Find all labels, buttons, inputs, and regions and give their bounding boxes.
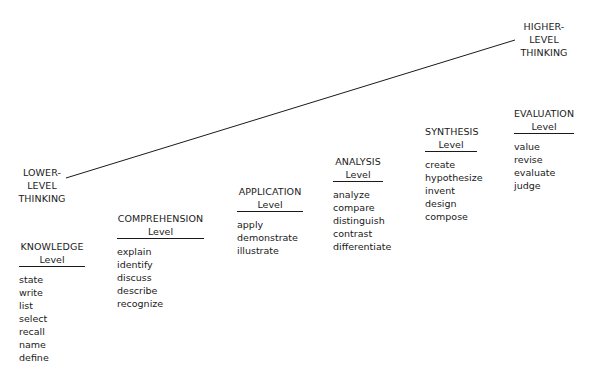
verb-item: differentiate bbox=[333, 240, 383, 253]
level-header: ANALYSIS Level bbox=[333, 155, 383, 182]
verb-item: distinguish bbox=[333, 214, 383, 227]
label-line: LEVEL bbox=[18, 179, 66, 192]
bloom-taxonomy-diagram: LOWER- LEVEL THINKING HIGHER- LEVEL THIN… bbox=[0, 0, 594, 390]
higher-level-thinking-label: HIGHER- LEVEL THINKING bbox=[514, 20, 574, 59]
level-subtitle: Level bbox=[333, 168, 383, 182]
verb-list: state write list select recall name defi… bbox=[19, 273, 85, 364]
level-subtitle: Level bbox=[19, 253, 85, 267]
verb-item: demonstrate bbox=[237, 231, 303, 244]
verb-item: recognize bbox=[117, 297, 204, 310]
verb-item: contrast bbox=[333, 227, 383, 240]
verb-item: describe bbox=[117, 284, 204, 297]
level-header: SYNTHESIS Level bbox=[425, 125, 477, 152]
verb-item: discuss bbox=[117, 271, 204, 284]
verb-list: analyze compare distinguish contrast dif… bbox=[333, 188, 383, 253]
verb-item: write bbox=[19, 286, 85, 299]
verb-item: evaluate bbox=[514, 166, 574, 179]
verb-list: explain identify discuss describe recogn… bbox=[117, 245, 204, 310]
verb-item: select bbox=[19, 312, 85, 325]
level-analysis: ANALYSIS Level analyze compare distingui… bbox=[333, 155, 383, 253]
level-subtitle: Level bbox=[425, 138, 477, 152]
verb-item: revise bbox=[514, 153, 574, 166]
label-line: HIGHER- bbox=[514, 20, 574, 33]
level-header: EVALUATION Level bbox=[514, 107, 574, 134]
verb-list: apply demonstrate illustrate bbox=[237, 218, 303, 257]
label-line: THINKING bbox=[18, 192, 66, 205]
verb-item: identify bbox=[117, 258, 204, 271]
verb-item: explain bbox=[117, 245, 204, 258]
verb-item: value bbox=[514, 140, 574, 153]
verb-item: recall bbox=[19, 325, 85, 338]
verb-item: judge bbox=[514, 179, 574, 192]
verb-item: list bbox=[19, 299, 85, 312]
verb-item: design bbox=[425, 197, 477, 210]
level-title: EVALUATION bbox=[514, 107, 574, 120]
level-comprehension: COMPREHENSION Level explain identify dis… bbox=[117, 212, 204, 310]
level-title: APPLICATION bbox=[237, 185, 303, 198]
level-synthesis: SYNTHESIS Level create hypothesize inven… bbox=[425, 125, 477, 223]
label-line: LEVEL bbox=[514, 33, 574, 46]
verb-item: state bbox=[19, 273, 85, 286]
level-knowledge: KNOWLEDGE Level state write list select … bbox=[19, 240, 85, 364]
verb-item: invent bbox=[425, 184, 477, 197]
verb-item: analyze bbox=[333, 188, 383, 201]
verb-item: compose bbox=[425, 210, 477, 223]
level-header: KNOWLEDGE Level bbox=[19, 240, 85, 267]
verb-item: illustrate bbox=[237, 244, 303, 257]
level-subtitle: Level bbox=[514, 120, 574, 134]
label-line: THINKING bbox=[514, 46, 574, 59]
level-title: SYNTHESIS bbox=[425, 125, 477, 138]
verb-list: create hypothesize invent design compose bbox=[425, 158, 477, 223]
verb-item: create bbox=[425, 158, 477, 171]
level-header: APPLICATION Level bbox=[237, 185, 303, 212]
verb-item: name bbox=[19, 338, 85, 351]
verb-item: define bbox=[19, 351, 85, 364]
level-title: COMPREHENSION bbox=[117, 212, 204, 225]
verb-list: value revise evaluate judge bbox=[514, 140, 574, 192]
level-header: COMPREHENSION Level bbox=[117, 212, 204, 239]
level-title: ANALYSIS bbox=[333, 155, 383, 168]
lower-level-thinking-label: LOWER- LEVEL THINKING bbox=[18, 166, 66, 205]
label-line: LOWER- bbox=[18, 166, 66, 179]
level-subtitle: Level bbox=[117, 225, 204, 239]
verb-item: compare bbox=[333, 201, 383, 214]
verb-item: hypothesize bbox=[425, 171, 477, 184]
level-subtitle: Level bbox=[237, 198, 303, 212]
level-application: APPLICATION Level apply demonstrate illu… bbox=[237, 185, 303, 257]
level-title: KNOWLEDGE bbox=[19, 240, 85, 253]
level-evaluation: EVALUATION Level value revise evaluate j… bbox=[514, 107, 574, 192]
verb-item: apply bbox=[237, 218, 303, 231]
